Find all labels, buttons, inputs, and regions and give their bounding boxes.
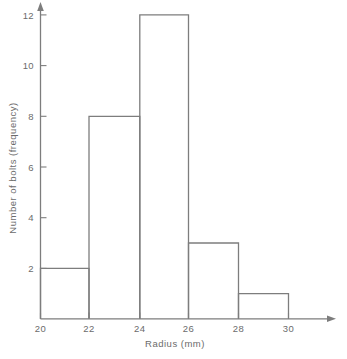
histogram-bar-20-22 bbox=[41, 268, 90, 318]
histogram-plot: 12 10 8 6 4 2 20 22 24 26 28 30 bbox=[0, 0, 347, 359]
y-tick-label-4: 4 bbox=[28, 212, 34, 223]
x-tick-label-26: 26 bbox=[183, 323, 194, 334]
histogram-bar-26-28 bbox=[189, 243, 239, 319]
histogram-chart: 12 10 8 6 4 2 20 22 24 26 28 30 bbox=[0, 0, 347, 359]
x-tick-label-24: 24 bbox=[134, 323, 145, 334]
x-tick-label-30: 30 bbox=[283, 323, 294, 334]
y-axis-arrow-icon bbox=[37, 2, 44, 11]
x-axis-tick-labels: 20 22 24 26 28 30 bbox=[35, 323, 294, 334]
y-axis-tick-labels: 12 10 8 6 4 2 bbox=[23, 10, 34, 275]
x-axis-ticks bbox=[41, 313, 289, 319]
x-axis-arrow-icon bbox=[327, 316, 336, 323]
y-tick-label-12: 12 bbox=[23, 10, 34, 21]
y-tick-label-2: 2 bbox=[28, 263, 34, 274]
histogram-bars bbox=[41, 15, 289, 319]
y-axis-ticks bbox=[41, 15, 47, 269]
histogram-bar-24-26 bbox=[140, 15, 189, 319]
x-tick-label-22: 22 bbox=[83, 323, 94, 334]
y-tick-label-6: 6 bbox=[28, 162, 34, 173]
histogram-bar-22-24 bbox=[89, 116, 140, 318]
histogram-bar-28-30 bbox=[239, 294, 289, 319]
y-tick-label-10: 10 bbox=[23, 60, 34, 71]
y-tick-label-8: 8 bbox=[28, 111, 34, 122]
y-axis-title: Number of bolts (frequency) bbox=[7, 102, 18, 233]
x-axis-title: Radius (mm) bbox=[145, 338, 205, 349]
axes-group bbox=[37, 2, 336, 322]
x-tick-label-28: 28 bbox=[233, 323, 244, 334]
x-tick-label-20: 20 bbox=[35, 323, 46, 334]
